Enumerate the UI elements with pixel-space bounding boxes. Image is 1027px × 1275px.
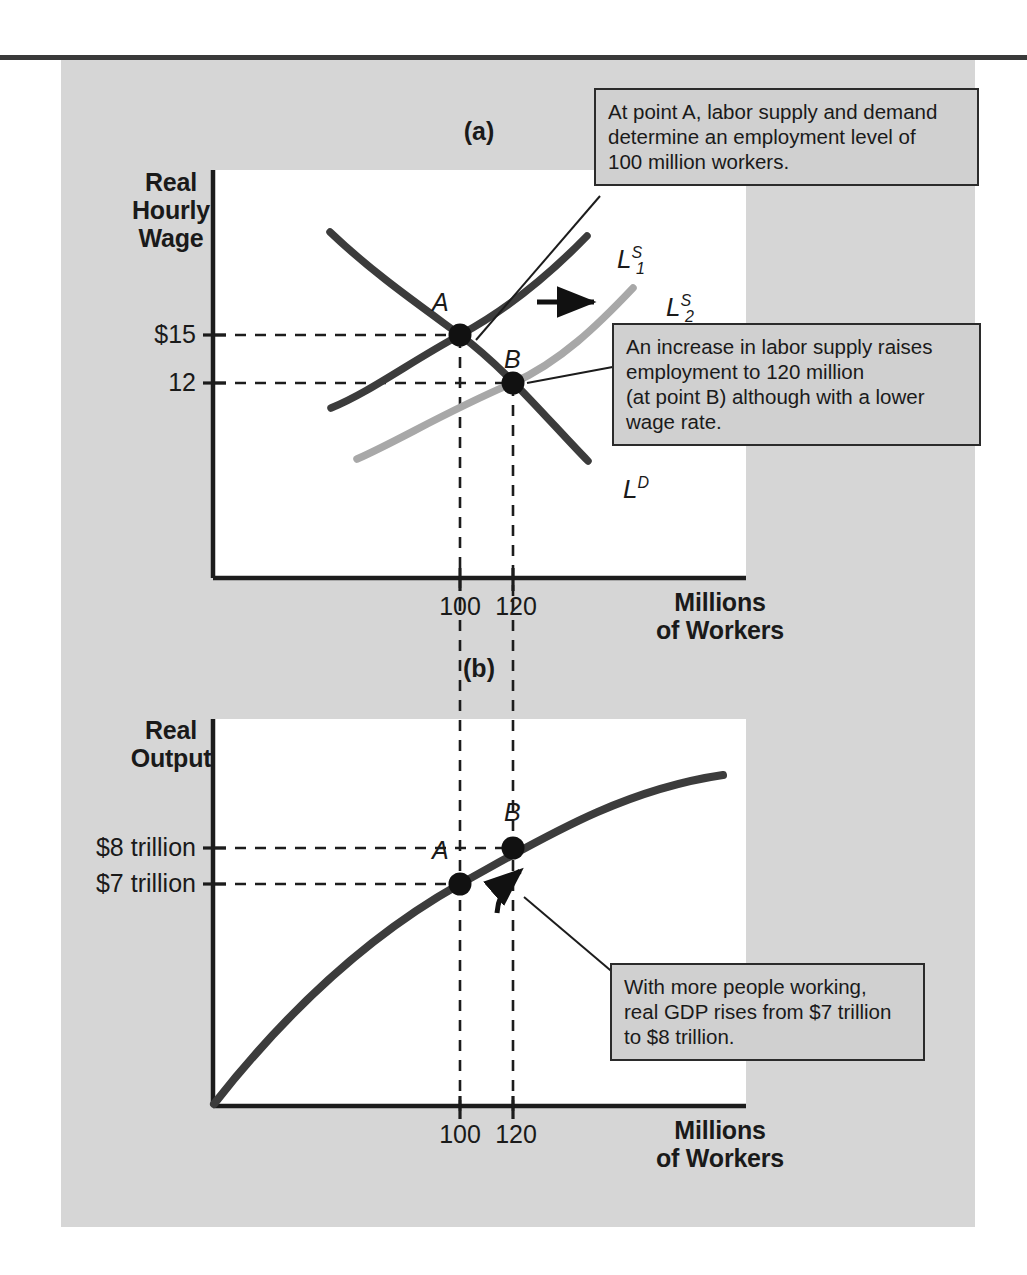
panel-a-guide-lines <box>215 335 513 600</box>
ls2-sup: S <box>680 292 691 309</box>
panel-b-point-b-label: B <box>504 798 521 827</box>
panel-b-x-tick-120: 120 <box>486 1120 546 1149</box>
callout-supply-increase: An increase in labor supply raises emplo… <box>612 323 981 446</box>
callout-gdp-rise: With more people working, real GDP rises… <box>610 963 925 1061</box>
panel-b-point-b <box>502 837 525 860</box>
panel-a-point-b <box>502 372 525 395</box>
output-movement-arrow <box>497 871 520 913</box>
leader-line-callout-a <box>476 196 600 340</box>
panel-a-point-a <box>449 324 472 347</box>
ls1-base: L <box>617 244 631 274</box>
panel-b-point-a-label: A <box>432 836 449 865</box>
panel-b-point-a <box>449 873 472 896</box>
panel-a-y-tick-15: $15 <box>130 320 196 349</box>
ls2-base: L <box>666 292 680 322</box>
panel-a-x-tick-100: 100 <box>430 592 490 621</box>
panel-a-point-a-label: A <box>432 288 449 317</box>
panel-a-y-tick-12: 12 <box>130 368 196 397</box>
panel-b-y-axis-title: Real Output <box>118 716 224 772</box>
ls1-sup: S <box>631 244 642 261</box>
panel-a-point-b-label: B <box>504 345 521 374</box>
panel-b-x-tick-100: 100 <box>430 1120 490 1149</box>
callout-point-a: At point A, labor supply and demand dete… <box>594 88 979 186</box>
panel-b-x-axis-title: Millions of Workers <box>630 1116 810 1172</box>
ld-sup: D <box>637 474 649 491</box>
panel-b-y-tick-7-trillion: $7 trillion <box>20 869 196 898</box>
panel-a-label: (a) <box>424 117 534 146</box>
curve-label-labor-demand: LD <box>594 443 649 536</box>
leader-line-callout-gdp <box>524 897 616 975</box>
panel-a-x-tick-120: 120 <box>486 592 546 621</box>
ld-base: L <box>623 474 637 504</box>
panel-b-y-tick-8-trillion: $8 trillion <box>20 833 196 862</box>
panel-b-label: (b) <box>424 654 534 683</box>
panel-a-x-axis-title: Millions of Workers <box>630 588 810 644</box>
figure-page: (a) Real Hourly Wage $15 12 100 120 Mill… <box>0 0 1027 1275</box>
panel-a-y-axis-title: Real Hourly Wage <box>118 168 224 252</box>
